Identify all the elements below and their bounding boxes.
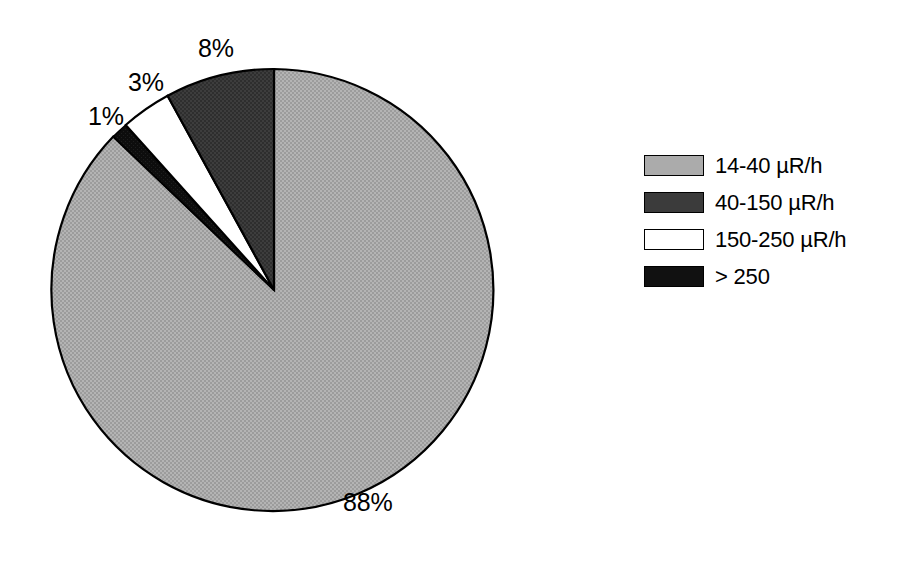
legend-swatch-dark-gray	[644, 192, 704, 213]
chart-legend: 14-40 µR/h 40-150 µR/h 150-250 µR/h > 25…	[644, 147, 889, 295]
legend-swatch-light-gray	[644, 155, 704, 176]
legend-label-150-250: 150-250 µR/h	[715, 229, 846, 251]
legend-item-40-150: 40-150 µR/h	[644, 184, 889, 221]
pie-data-label-40-150: 8%	[198, 36, 234, 61]
legend-label-40-150: 40-150 µR/h	[715, 192, 834, 214]
legend-label-14-40: 14-40 µR/h	[715, 155, 822, 177]
legend-swatch-white	[644, 229, 704, 250]
legend-item-150-250: 150-250 µR/h	[644, 221, 889, 258]
legend-item-gt-250: > 250	[644, 258, 889, 295]
pie-chart-figure: 8% 3% 1% 88% 14-40 µR/h 40-150 µR/h 150-…	[0, 0, 909, 567]
pie-data-label-14-40: 88%	[343, 490, 392, 515]
legend-swatch-black	[644, 266, 704, 287]
pie-data-label-150-250: 3%	[128, 70, 164, 95]
legend-label-gt-250: > 250	[715, 266, 770, 288]
legend-item-14-40: 14-40 µR/h	[644, 147, 889, 184]
pie-data-label-gt-250: 1%	[88, 104, 124, 129]
